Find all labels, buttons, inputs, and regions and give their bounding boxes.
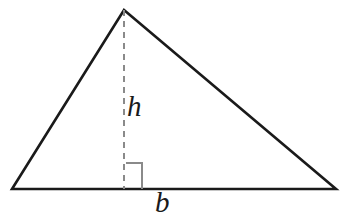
triangle-figure-svg [0,0,347,224]
base-label: b [155,188,170,217]
triangle-diagram: h b [0,0,347,224]
height-label: h [127,92,142,121]
right-angle-square [126,163,142,189]
triangle-outline [12,10,336,189]
